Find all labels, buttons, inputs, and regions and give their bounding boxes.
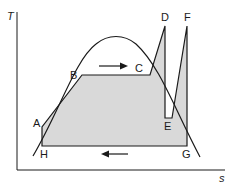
point-label-d: D (161, 12, 169, 23)
point-label-g: G (182, 149, 191, 160)
right-arrow-icon (99, 63, 128, 70)
point-label-b: B (70, 70, 77, 81)
point-label-a: A (33, 118, 40, 129)
point-label-f: F (184, 12, 191, 23)
x-axis-label: s (219, 173, 225, 184)
point-label-e: E (164, 121, 171, 132)
ts-diagram (0, 0, 236, 192)
y-axis-label: T (7, 11, 14, 22)
left-arrow-icon (101, 151, 128, 158)
point-label-h: H (40, 149, 48, 160)
point-label-c: C (135, 63, 143, 74)
